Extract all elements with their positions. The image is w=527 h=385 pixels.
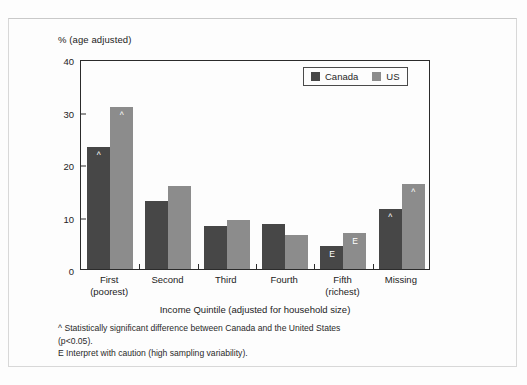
bar-us [168,186,191,269]
bar-us: ^ [402,184,425,269]
x-axis-label-line1: Third [215,274,237,285]
x-axis-tick-mark [373,264,374,269]
footnote-significance-line1: Statistically significant difference bet… [64,323,340,333]
x-axis-tick-mark [314,264,315,269]
chart-figure: % (age adjusted) 010203040^^EE^^ CanadaU… [0,0,527,385]
chart-footnotes: ^ Statistically significant difference b… [58,322,478,360]
chart-legend: CanadaUS [303,67,408,86]
plot-area: 010203040^^EE^^ CanadaUS [80,60,430,270]
bar-canada [145,201,168,269]
bar-group [256,61,314,269]
x-axis-tick-mark [198,264,199,269]
legend-entry-us: US [372,71,399,82]
x-axis-label: Third [215,274,237,286]
footnote-significance-line2: (p<0.05). [58,335,478,348]
y-axis-tick-label: 10 [63,213,81,224]
bar-group: ^^ [81,61,139,269]
bar-canada: ^ [379,209,402,269]
bar-group: ^^ [373,61,431,269]
y-axis-title: % (age adjusted) [58,34,131,45]
plot-inner: 010203040^^EE^^ [81,61,429,269]
bar-canada [204,226,227,269]
caret-symbol: ^ [58,323,62,333]
bar-us: ^ [110,107,133,269]
x-axis-label-line1: Second [151,274,183,285]
x-axis-label-line1: Fourth [270,274,297,285]
bar-marker: ^ [402,188,425,197]
legend-swatch [311,72,320,81]
bar-group [198,61,256,269]
x-axis-label-line1: Missing [385,274,417,285]
bar-marker: E [320,250,343,259]
bar-canada: E [320,246,343,269]
legend-label: US [386,71,399,82]
bar-us [227,220,250,269]
x-axis-label: Missing [385,274,417,286]
footnote-caution: E Interpret with caution (high sampling … [58,347,478,360]
x-axis-label-line1: Fifth [333,274,351,285]
bar-marker: ^ [110,111,133,120]
legend-label: Canada [325,71,358,82]
bar-marker: ^ [87,151,110,160]
bar-canada: ^ [87,147,110,269]
bar-group [139,61,197,269]
x-axis-label-line2: (richest) [325,286,359,298]
legend-entry-canada: Canada [311,71,358,82]
x-axis-label: Fifth(richest) [325,274,359,297]
x-axis-tick-mark [139,264,140,269]
x-axis-label: Fourth [270,274,297,286]
bar-group: EE [314,61,372,269]
x-axis-label: Second [151,274,183,286]
x-axis-label: First(poorest) [90,274,128,297]
y-axis-tick-label: 30 [63,108,81,119]
x-axis-title: Income Quintile (adjusted for household … [160,304,351,315]
bar-canada [262,224,285,269]
legend-swatch [372,72,381,81]
bar-marker: ^ [379,213,402,222]
y-axis-tick-label: 0 [69,266,81,277]
footnote-significance: ^ Statistically significant difference b… [58,322,478,335]
y-axis-tick-label: 20 [63,161,81,172]
y-axis-tick-label: 40 [63,56,81,67]
bar-us: E [343,233,366,269]
x-axis-tick-mark [256,264,257,269]
bar-marker: E [343,237,366,246]
x-axis-label-line2: (poorest) [90,286,128,298]
x-axis-label-line1: First [100,274,118,285]
bar-us [285,235,308,269]
